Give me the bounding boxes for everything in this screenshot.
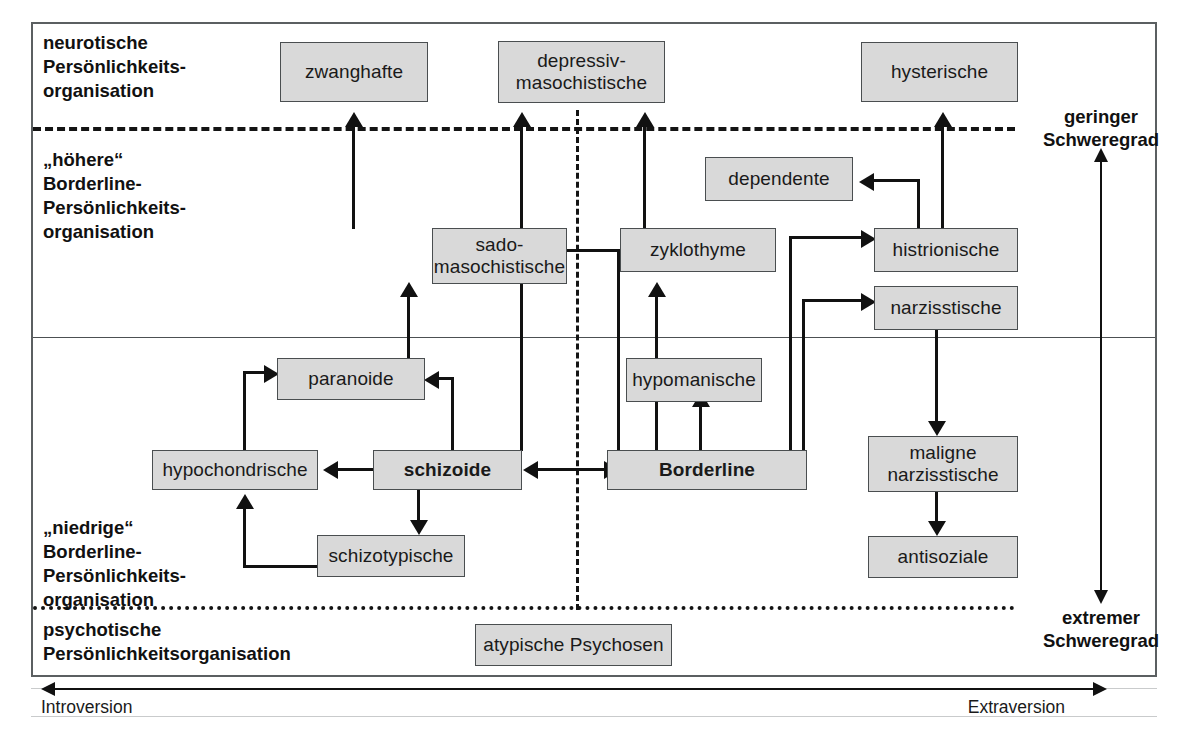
edge-schizotypische-to-hypochondrische-hshaft	[243, 565, 319, 568]
node-zwanghafte[interactable]: zwanghafte	[280, 42, 428, 102]
edge-schizoide-to-paranoide-vshaft	[451, 377, 454, 452]
edge-maligne-to-antisoziale-shaft	[935, 491, 938, 523]
edge-hypochondrische-to-paranoide-vshaft	[243, 371, 246, 452]
severity-top-label: geringer Schweregrad	[1022, 105, 1180, 151]
node-hysterische[interactable]: hysterische	[861, 42, 1018, 102]
horizontal-arrowhead-left	[41, 682, 55, 696]
node-paranoide[interactable]: paranoide	[277, 358, 425, 400]
edge-histrionische-to-dependente-hshaft	[873, 179, 920, 182]
edge-schizoide-to-schizotypische-shaft	[417, 490, 420, 522]
edge-paranoide-to-sado-shaft	[407, 296, 410, 360]
horizontal-axis-line	[54, 688, 1094, 690]
node-borderline[interactable]: Borderline	[607, 450, 807, 490]
edge-histrionische-to-hysterische-head	[934, 112, 952, 127]
region-label-low-borderline: „niedrige“ Borderline- Persönlichkeits- …	[43, 516, 186, 612]
region-label-psychotic: psychotische Persönlichkeitsorganisation	[43, 618, 291, 666]
severity-axis-line	[1100, 155, 1102, 595]
edge-borderline-to-narzisstische-vshaft	[802, 299, 805, 452]
region-label-high-borderline: „höhere“ Borderline- Persönlichkeits- or…	[43, 148, 186, 244]
node-dependente[interactable]: dependente	[705, 157, 853, 201]
edge-borderline-to-histrionische-hshaft	[789, 236, 864, 239]
node-hypomanische[interactable]: hypomanische	[626, 358, 762, 402]
edge-sado-to-zwanghafte-head	[345, 112, 363, 127]
edge-schizoide-borderline-shaft	[536, 468, 606, 471]
node-zyklothyme[interactable]: zyklothyme	[620, 228, 776, 272]
node-histrionische[interactable]: histrionische	[874, 228, 1018, 272]
axis-label-introversion: Introversion	[41, 697, 132, 718]
boundary-high-low-borderline	[33, 337, 1155, 338]
edge-borderline-to-sado-vshaft	[617, 249, 620, 452]
severity-bottom-label: extremer Schweregrad	[1022, 606, 1180, 652]
edge-histrionische-to-dependente-head	[859, 173, 874, 191]
region-label-neurotic: neurotische Persönlichkeits- organisatio…	[43, 31, 186, 103]
edge-schizoide-to-paranoide-head	[424, 371, 439, 389]
edge-zyklothyme-to-depressiv-shaft	[643, 126, 646, 229]
boundary-neurotic-high-borderline	[33, 127, 1015, 131]
node-schizoide[interactable]: schizoide	[373, 450, 522, 490]
edge-borderline-to-narzisstische-hshaft	[802, 299, 864, 302]
edge-maligne-to-antisoziale-head	[928, 521, 946, 536]
diagram-frame	[31, 22, 1157, 677]
node-narzisstische[interactable]: narzisstische	[874, 286, 1018, 330]
node-hypochondrische[interactable]: hypochondrische	[152, 450, 318, 490]
edge-schizoide-to-paranoide-hshaft	[438, 377, 453, 380]
node-schizotypische[interactable]: schizotypische	[317, 535, 465, 577]
edge-schizoide-borderline-head-left	[523, 461, 538, 479]
edge-schizotypische-to-hypochondrische-vshaft	[243, 508, 246, 568]
node-depressiv-masochistische[interactable]: depressiv- masochistische	[498, 41, 665, 103]
edge-borderline-to-zyklothyme-head	[648, 282, 666, 297]
axis-label-extraversion: Extraversion	[968, 697, 1065, 718]
edge-schizoide-to-schizotypische-head	[410, 520, 428, 535]
edge-zyklothyme-to-depressiv-head	[636, 112, 654, 127]
boundary-introversion-extraversion	[576, 110, 579, 610]
edge-sado-to-zwanghafte-shaft	[352, 126, 355, 229]
edge-schizoide-to-hypochondrische-head	[323, 461, 338, 479]
edge-schizotypische-to-hypochondrische-head	[236, 494, 254, 509]
node-antisoziale[interactable]: antisoziale	[868, 536, 1018, 578]
node-sado-masochistische[interactable]: sado- masochistische	[432, 228, 567, 284]
edge-borderline-to-hypomanische-shaft	[699, 406, 702, 454]
edge-paranoide-to-sado-head	[400, 282, 418, 297]
edge-narzisstische-to-maligne-shaft	[935, 317, 938, 424]
severity-arrowhead-down	[1094, 590, 1108, 604]
edge-borderline-to-histrionische-vshaft	[789, 236, 792, 452]
diagram-canvas: neurotische Persönlichkeits- organisatio…	[0, 0, 1189, 750]
node-atypische-psychosen[interactable]: atypische Psychosen	[475, 624, 672, 666]
severity-arrowhead-up	[1094, 148, 1108, 162]
edge-histrionische-to-hysterische-shaft	[941, 126, 944, 229]
edge-histrionische-to-dependente-vshaft	[917, 179, 920, 231]
edge-schizoide-to-hypochondrische-shaft	[337, 468, 375, 471]
node-maligne-narzisstische[interactable]: maligne narzisstische	[868, 436, 1018, 492]
edge-borderline-to-depressiv-head	[513, 112, 531, 127]
edge-narzisstische-to-maligne-head	[928, 421, 946, 436]
horizontal-arrowhead-right	[1093, 682, 1107, 696]
edge-borderline-to-depressiv-shaft	[520, 126, 523, 451]
